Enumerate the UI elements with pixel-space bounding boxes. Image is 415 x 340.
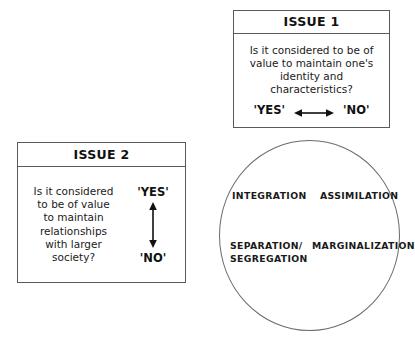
outcome-separation-segregation: SEPARATION/ SEGREGATION <box>230 240 308 265</box>
outcome-integration: INTEGRATION <box>232 190 307 203</box>
vertical-double-arrow-icon <box>147 202 159 248</box>
issue-2-title: ISSUE 2 <box>18 143 185 167</box>
issue-1-body: Is it considered to be of value to maint… <box>234 34 389 126</box>
issue-2-answer-no: 'NO' <box>140 251 166 265</box>
outcome-marginalization: MARGINALIZATION <box>312 240 415 253</box>
issue-1-question: Is it considered to be of value to maint… <box>234 34 389 97</box>
issue-1-answer-no: 'NO' <box>343 103 369 117</box>
issue-1-box: ISSUE 1 Is it considered to be of value … <box>233 10 390 128</box>
issue-2-question-column: Is it considered to be of value to maint… <box>18 185 125 264</box>
issue-2-answer-yes: 'YES' <box>137 185 169 199</box>
issue-1-answer-yes: 'YES' <box>254 103 286 117</box>
outcome-assimilation: ASSIMILATION <box>320 190 398 203</box>
acculturation-strategies-diagram: ISSUE 1 Is it considered to be of value … <box>0 0 415 340</box>
issue-2-body: Is it considered to be of value to maint… <box>18 167 185 282</box>
acculturation-outcomes-ellipse: INTEGRATION ASSIMILATION SEPARATION/ SEG… <box>219 140 400 331</box>
issue-2-answer-column: 'YES' 'NO' <box>125 167 185 282</box>
ellipse-outline <box>219 140 400 331</box>
issue-2-box: ISSUE 2 Is it considered to be of value … <box>17 142 186 283</box>
issue-2-question: Is it considered to be of value to maint… <box>22 185 125 264</box>
issue-1-title: ISSUE 1 <box>234 11 389 34</box>
horizontal-double-arrow-icon <box>294 104 334 116</box>
issue-1-answer-row: 'YES' 'NO' <box>234 103 389 117</box>
